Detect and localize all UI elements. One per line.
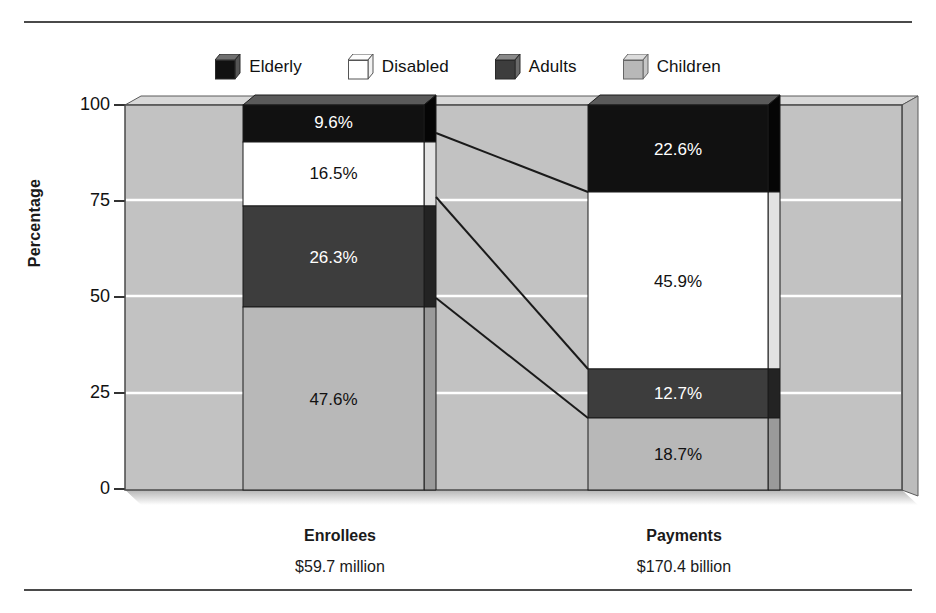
bar-enrollees-segment-adults[interactable] [243,206,424,307]
bar-enrollees[interactable] [243,95,436,490]
bar-enrollees-top-cap [243,95,436,105]
bar-payments-side-elderly [768,95,780,192]
bar-payments-segment-elderly[interactable] [588,105,768,192]
category-subtitle-enrollees: $59.7 million [190,558,490,576]
category-subtitle-payments: $170.4 billion [534,558,834,576]
bar-enrollees-side-adults [424,206,436,307]
bar-enrollees-segment-disabled[interactable] [243,142,424,206]
bar-payments-side-adults [768,369,780,418]
bar-enrollees-side-children [424,307,436,490]
bar-payments-side-children [768,418,780,490]
bar-payments-segment-adults[interactable] [588,369,768,418]
plot-area [0,0,936,613]
category-label-enrollees: Enrollees [190,527,490,545]
chart-figure: Elderly Disabled Adults [0,0,936,613]
bar-payments-segment-disabled[interactable] [588,192,768,369]
plot-right-band [902,96,918,496]
bar-payments-side-disabled [768,192,780,369]
category-label-payments: Payments [534,527,834,545]
bar-payments[interactable] [588,95,780,490]
bar-payments-top-cap [588,95,780,105]
bar-enrollees-segment-children[interactable] [243,307,424,490]
bar-enrollees-side-disabled [424,142,436,206]
bar-payments-segment-children[interactable] [588,418,768,490]
bar-enrollees-segment-elderly[interactable] [243,105,424,142]
